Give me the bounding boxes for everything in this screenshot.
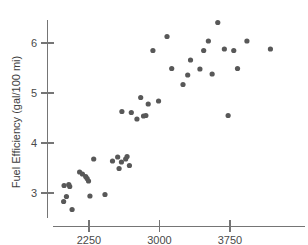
data-point [146, 101, 151, 106]
x-tick-label: 3000 [147, 234, 171, 245]
data-point [226, 113, 231, 118]
data-point [119, 109, 124, 114]
data-point [185, 72, 190, 77]
data-point [61, 183, 66, 188]
data-point [180, 82, 185, 87]
data-point [164, 34, 169, 39]
data-point [156, 98, 161, 103]
x-axis-ticks: 225030003750 [77, 220, 242, 245]
data-point [67, 184, 72, 189]
data-point [206, 38, 211, 43]
data-point [86, 178, 91, 183]
data-point [91, 156, 96, 161]
data-point [215, 20, 220, 25]
data-point [61, 199, 66, 204]
data-point [244, 38, 249, 43]
data-point [115, 154, 120, 159]
data-point [69, 207, 74, 212]
data-point [129, 110, 134, 115]
data-point [197, 66, 202, 71]
data-point [138, 95, 143, 100]
data-point [102, 192, 107, 197]
data-point [116, 166, 121, 171]
data-point [268, 46, 273, 51]
data-point [235, 66, 240, 71]
y-tick-label: 5 [31, 87, 37, 99]
x-tick-label: 3750 [218, 234, 242, 245]
data-point [127, 163, 132, 168]
data-point [134, 116, 139, 121]
y-tick-label: 4 [31, 137, 37, 149]
data-points-layer [61, 20, 273, 212]
y-axis: 3456 [31, 20, 54, 218]
x-tick-label: 2250 [77, 234, 101, 245]
y-tick-label: 6 [31, 37, 37, 49]
data-point [119, 159, 124, 164]
data-point [231, 48, 236, 53]
scatter-plot-figure: 3456 225030003750 Fuel Efficiency (gal/1… [0, 0, 308, 245]
y-axis-title: Fuel Efficiency (gal/100 mi) [10, 56, 22, 188]
x-axis: 225030003750 [53, 220, 305, 245]
data-point [210, 71, 215, 76]
data-point [201, 48, 206, 53]
data-point [222, 46, 227, 51]
plot-canvas: 3456 225030003750 Fuel Efficiency (gal/1… [0, 0, 308, 245]
data-point [188, 57, 193, 62]
data-point [150, 48, 155, 53]
data-point [64, 194, 69, 199]
data-point [110, 158, 115, 163]
data-point [87, 193, 92, 198]
data-point [143, 113, 148, 118]
data-point [124, 154, 129, 159]
y-axis-ticks: 3456 [31, 37, 54, 199]
data-point [169, 66, 174, 71]
y-tick-label: 3 [31, 187, 37, 199]
